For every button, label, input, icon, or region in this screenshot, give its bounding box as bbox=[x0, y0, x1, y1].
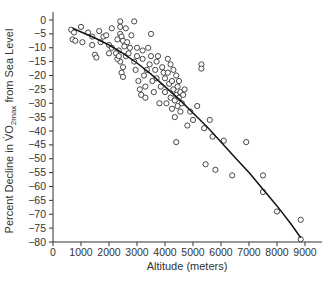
y-tick-label: −70 bbox=[28, 208, 46, 220]
data-point bbox=[260, 173, 265, 178]
x-tick-label: 2000 bbox=[97, 246, 121, 258]
x-axis-title: Altitude (meters) bbox=[147, 260, 228, 272]
data-point bbox=[155, 54, 160, 59]
data-point bbox=[162, 90, 167, 95]
data-point bbox=[146, 45, 151, 50]
y-tick-label: 0 bbox=[40, 14, 46, 26]
y-tick-label: −15 bbox=[28, 55, 46, 67]
plot-area: 0−5−10−15−20−25−30−35−40−45−50−55−60−65−… bbox=[28, 12, 322, 258]
x-tick-label: 1000 bbox=[69, 246, 93, 258]
data-point bbox=[133, 67, 138, 72]
data-point bbox=[104, 33, 109, 38]
data-point bbox=[125, 40, 130, 45]
data-point bbox=[106, 51, 111, 56]
y-tick-label: −5 bbox=[34, 27, 46, 39]
data-point bbox=[137, 87, 142, 92]
data-point bbox=[162, 76, 167, 81]
y-tick-label: −60 bbox=[28, 180, 46, 192]
data-point bbox=[143, 84, 148, 89]
data-point bbox=[274, 209, 279, 214]
data-point bbox=[213, 167, 218, 172]
data-point bbox=[109, 26, 114, 31]
data-point bbox=[97, 29, 102, 34]
x-tick-label: 8000 bbox=[265, 246, 289, 258]
data-point bbox=[164, 101, 169, 106]
y-tick-label: −40 bbox=[28, 125, 46, 137]
data-point bbox=[143, 95, 148, 100]
y-axis-ticks: 0−5−10−15−20−25−30−35−40−45−50−55−60−65−… bbox=[28, 14, 53, 248]
y-tick-label: −35 bbox=[28, 111, 46, 123]
data-point bbox=[153, 67, 158, 72]
data-point bbox=[199, 66, 204, 71]
data-point bbox=[80, 40, 85, 45]
y-tick-label: −20 bbox=[28, 69, 46, 81]
data-point bbox=[127, 45, 132, 50]
data-point bbox=[195, 103, 200, 108]
y-axis-title: Percent Decline in V̇O2max from Sea Leve… bbox=[3, 29, 18, 234]
data-point bbox=[154, 59, 159, 64]
data-point bbox=[120, 65, 125, 70]
data-point bbox=[132, 19, 137, 24]
x-axis-ticks: 0100020003000400050006000700080009000 bbox=[50, 242, 317, 258]
data-point bbox=[136, 78, 141, 83]
data-point bbox=[116, 54, 121, 59]
data-point bbox=[118, 24, 123, 29]
y-axis-title-symbol: V̇O bbox=[3, 125, 15, 141]
data-point bbox=[78, 24, 83, 29]
y-axis-title-prefix: Percent Decline in bbox=[3, 141, 15, 233]
data-point bbox=[165, 56, 170, 61]
y-tick-label: −55 bbox=[28, 166, 46, 178]
y-tick-label: −75 bbox=[28, 222, 46, 234]
x-tick-label: 6000 bbox=[209, 246, 233, 258]
data-point bbox=[175, 84, 180, 89]
data-point bbox=[141, 73, 146, 78]
data-point bbox=[185, 123, 190, 128]
fit-curve bbox=[73, 28, 301, 238]
data-point bbox=[157, 101, 162, 106]
data-point bbox=[171, 67, 176, 72]
data-point bbox=[118, 19, 123, 24]
x-tick-label: 0 bbox=[50, 246, 56, 258]
data-point bbox=[140, 56, 145, 61]
data-point bbox=[207, 117, 212, 122]
data-point bbox=[151, 90, 156, 95]
data-points bbox=[69, 19, 304, 242]
data-point bbox=[181, 92, 186, 97]
y-axis-title-suffix: from Sea Level bbox=[3, 29, 15, 106]
x-tick-label: 4000 bbox=[153, 246, 177, 258]
data-point bbox=[190, 117, 195, 122]
data-point bbox=[90, 42, 95, 47]
data-point bbox=[140, 48, 145, 53]
data-point bbox=[174, 73, 179, 78]
data-point bbox=[298, 217, 303, 222]
data-point bbox=[174, 140, 179, 145]
data-point bbox=[165, 70, 170, 75]
y-tick-label: −50 bbox=[28, 152, 46, 164]
data-point bbox=[203, 162, 208, 167]
x-tick-label: 7000 bbox=[237, 246, 261, 258]
data-point bbox=[172, 115, 177, 120]
data-point bbox=[129, 33, 134, 38]
data-point bbox=[168, 62, 173, 67]
data-point bbox=[178, 109, 183, 114]
scatter-chart: 0−5−10−15−20−25−30−35−40−45−50−55−60−65−… bbox=[0, 0, 329, 281]
y-tick-label: −25 bbox=[28, 83, 46, 95]
y-tick-label: −10 bbox=[28, 41, 46, 53]
data-point bbox=[230, 173, 235, 178]
data-point bbox=[94, 55, 99, 60]
data-point bbox=[148, 54, 153, 59]
data-point bbox=[176, 78, 181, 83]
data-point bbox=[120, 74, 125, 79]
x-tick-label: 5000 bbox=[181, 246, 205, 258]
data-point bbox=[169, 106, 174, 111]
data-point bbox=[134, 45, 139, 50]
data-point bbox=[147, 62, 152, 67]
data-point bbox=[160, 65, 165, 70]
y-tick-label: −30 bbox=[28, 97, 46, 109]
data-point bbox=[134, 54, 139, 59]
y-tick-label: −45 bbox=[28, 138, 46, 150]
y-tick-label: −80 bbox=[28, 236, 46, 248]
data-point bbox=[169, 78, 174, 83]
data-point bbox=[123, 26, 128, 31]
x-tick-label: 9000 bbox=[293, 246, 317, 258]
